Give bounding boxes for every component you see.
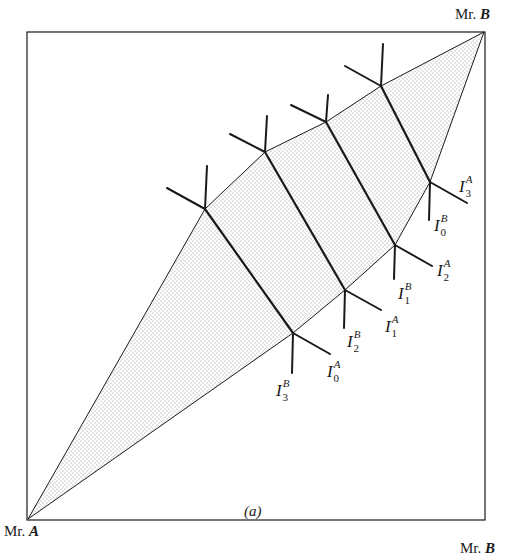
label-base: I <box>327 362 333 381</box>
origin-a-name: A <box>29 523 39 539</box>
label-base: I <box>347 332 353 351</box>
label-base: I <box>459 177 465 196</box>
label-sup: B <box>405 280 412 292</box>
label-I1B: IB1 <box>398 285 410 302</box>
label-I2A: IA2 <box>437 262 449 279</box>
label-base: I <box>434 216 440 235</box>
label-base: I <box>398 284 404 303</box>
label-sub: 1 <box>404 294 410 306</box>
label-I0A: IA0 <box>327 363 339 380</box>
cut-prefix: Mr. <box>460 540 481 556</box>
label-sup: B <box>441 212 448 224</box>
label-I1A: IA1 <box>385 318 397 335</box>
cut-name: B <box>485 540 495 556</box>
label-sup: B <box>354 328 361 340</box>
label-I3B: IB3 <box>276 382 288 399</box>
label-sub: 0 <box>440 226 446 238</box>
origin-a-prefix: Mr. <box>4 523 25 539</box>
label-sup: A <box>444 257 451 269</box>
label-sub: 2 <box>353 342 359 354</box>
label-sup: A <box>334 358 341 370</box>
label-sup: B <box>283 377 290 389</box>
label-sub: 3 <box>465 187 471 199</box>
label-sup: A <box>466 173 473 185</box>
label-sup: A <box>392 313 399 325</box>
label-base: I <box>385 317 391 336</box>
label-sub: 1 <box>391 327 397 339</box>
origin-b-label: Mr. B <box>455 6 490 23</box>
label-base: I <box>437 261 443 280</box>
origin-a-label: Mr. A <box>4 523 39 540</box>
origin-b-name: B <box>480 6 490 22</box>
next-figure-label-cut: Mr. B <box>460 540 495 557</box>
label-I2B: IB2 <box>347 333 359 350</box>
label-sub: 0 <box>333 372 339 384</box>
label-sub: 3 <box>282 391 288 403</box>
figure-caption: (a) <box>244 503 262 520</box>
lens-region <box>28 32 484 519</box>
label-I0B: IB0 <box>434 217 446 234</box>
origin-b-prefix: Mr. <box>455 6 476 22</box>
label-sub: 2 <box>443 271 449 283</box>
label-base: I <box>276 381 282 400</box>
label-I3A: IA3 <box>459 178 471 195</box>
